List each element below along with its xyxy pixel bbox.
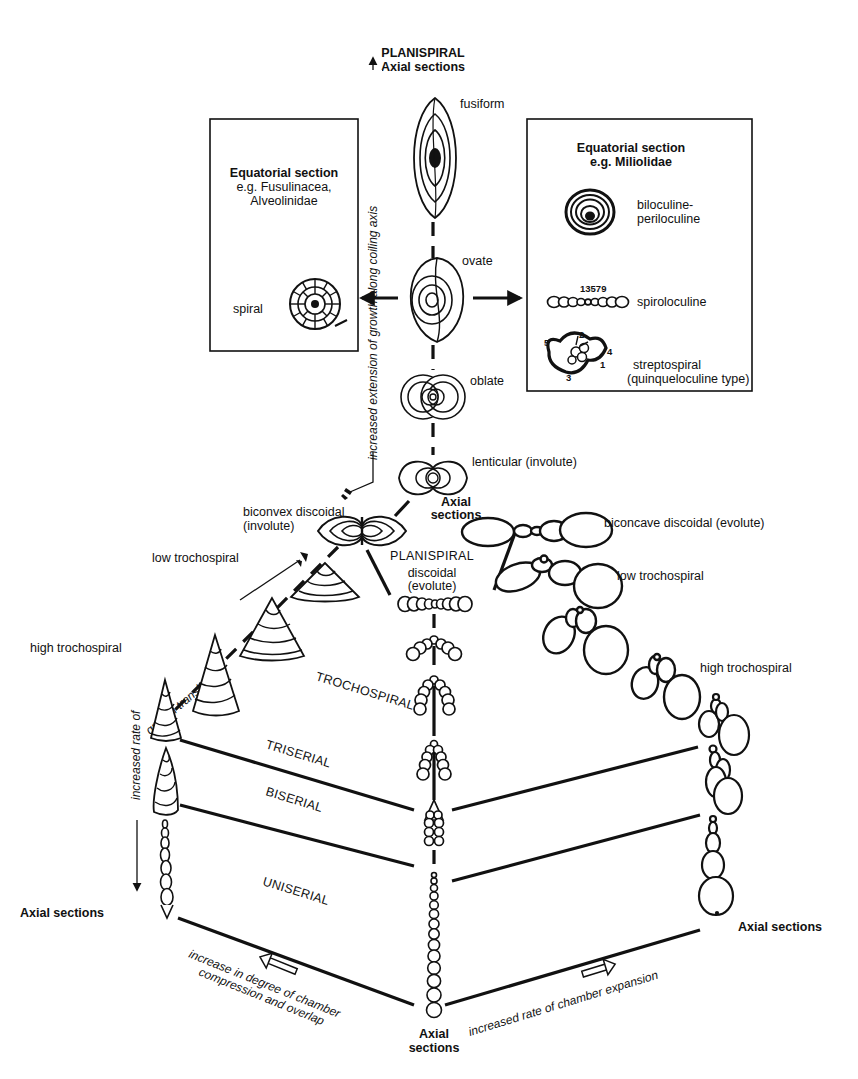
left-branch: growth translation increased rate of low… [20, 547, 359, 920]
spiral-label: spiral [233, 302, 263, 316]
expansion-label: increased rate of chamber expansion [467, 968, 660, 1039]
band-line-right-1 [452, 747, 698, 810]
spiral-shell-icon [290, 279, 347, 329]
uniserial-band-label: UNISERIAL [261, 874, 331, 907]
center-uniserial-shell-icon [427, 873, 442, 1018]
streptospiral-label-1: streptospiral [633, 358, 701, 372]
high-trochospiral-left-label: high trochospiral [30, 641, 122, 655]
strepto-number-4: 4 [607, 346, 613, 357]
biloculine-shell-icon [566, 190, 614, 234]
biloculine-label-1: biloculine- [637, 198, 693, 212]
discoidal-evolute-shell-icon [398, 597, 472, 612]
mid-trochospiral-right-shell-icon [537, 607, 628, 674]
fusiform-label: fusiform [460, 97, 504, 111]
biconcave-discoidal-shell-icon [462, 513, 612, 547]
feather-tail-icon [341, 488, 352, 500]
strepto-number-1: 1 [600, 359, 606, 370]
lenticular-shell-icon [399, 462, 467, 495]
left-box-subtitle-1: e.g. Fusulinacea, [236, 180, 331, 194]
strepto-number-5: 5 [544, 337, 550, 348]
biloculine-label-2: periloculine [637, 212, 700, 226]
spiroloculine-shell-icon [548, 297, 629, 308]
vertical-axis-label: increased extension of growth along coil… [366, 206, 380, 460]
oblate-shell-icon [401, 375, 465, 419]
left-box-subtitle-2: Alveolinidae [250, 194, 317, 208]
spiroloculine-label: spiroloculine [637, 295, 707, 309]
growth-translation-line [240, 560, 300, 600]
low-trochospiral-left-label: low trochospiral [152, 551, 239, 565]
band-line-right-2 [452, 815, 700, 881]
axis-connector [350, 470, 373, 492]
discoidal-label-1: discoidal [408, 566, 457, 580]
axial-sections-right-label: Axial sections [738, 920, 822, 934]
high-trochospiral-right-shell-icon [628, 654, 700, 719]
streptospiral-label-2: (quinqueloculine type) [627, 372, 749, 386]
planispiral-center-label: PLANISPIRAL [390, 549, 474, 563]
feather-tail-icon [296, 552, 308, 567]
axial-label-bottom-2: sections [409, 1041, 460, 1055]
strepto-number-3: 3 [566, 372, 571, 383]
biconcave-label: biconcave discoidal (evolute) [604, 516, 765, 530]
connector-biconvex-lenticular [395, 501, 409, 516]
uniserial-left-shell-icon [161, 820, 174, 918]
fusiform-shell-icon [414, 98, 456, 218]
band-line-biserial-top [180, 805, 414, 866]
axial-sections-left-label: Axial sections [20, 906, 104, 920]
lenticular-label: lenticular (involute) [472, 455, 577, 469]
high-trochospiral-mid-shell-icon [193, 635, 239, 716]
axial-label-bottom-1: Axial [419, 1027, 449, 1041]
planispiral-top-label: PLANISPIRAL [381, 46, 465, 60]
foraminifera-coiling-diagram: PLANISPIRAL Axial sections increased ext… [0, 0, 858, 1079]
right-box-title: Equatorial section [577, 141, 685, 155]
high-trochospiral-right-label: high trochospiral [700, 661, 792, 675]
high-trochospiral-right-2-shell-icon [699, 694, 749, 755]
right-box-subtitle: e.g. Miliolidae [590, 155, 672, 169]
streptospiral-shell-icon [548, 333, 606, 373]
biserial-band-label: BISERIAL [264, 784, 324, 815]
low-trochospiral-right-shell-icon [492, 556, 622, 609]
axial-sections-top-label: Axial sections [381, 60, 465, 74]
ovate-label: ovate [462, 254, 493, 268]
center-biserial-shell-icon [425, 800, 444, 846]
biconvex-label-2: (involute) [243, 519, 294, 533]
oblate-label: oblate [470, 374, 504, 388]
left-equatorial-box: Equatorial section e.g. Fusulinacea, Alv… [210, 119, 358, 351]
low-trochospiral-right-label: low trochospiral [617, 569, 704, 583]
increased-rate-label: increased rate of [129, 709, 143, 800]
bottom-annotations: increase in degree of chamber compressio… [187, 947, 660, 1039]
vertical-growth-axis: increased extension of growth along coil… [341, 58, 382, 500]
triserial-band-label: TRISERIAL [264, 737, 332, 770]
trochospiral-band-label: TROCHOSPIRAL [314, 669, 416, 712]
biconvex-discoidal-shell-icon [318, 517, 406, 546]
triserial-left-shell-icon [154, 748, 178, 815]
left-box-title: Equatorial section [230, 166, 338, 180]
uniserial-right-shell-icon [699, 816, 733, 915]
connector-biconvex-discoidal [367, 550, 390, 595]
mid-trochospiral-left-shell-icon [240, 598, 304, 661]
biconvex-label-1: biconvex discoidal [243, 505, 344, 519]
ovate-shell-icon [411, 258, 464, 342]
right-equatorial-box: Equatorial section e.g. Miliolidae biloc… [527, 119, 752, 391]
strepto-number-2: 2 [579, 329, 584, 340]
right-branch: biconcave discoidal (evolute) low trocho… [462, 513, 822, 934]
top-title: PLANISPIRAL Axial sections [381, 46, 465, 74]
axial-label-center-1: Axial [441, 495, 471, 509]
spiroloculine-numbers: 13579 [580, 283, 606, 294]
discoidal-label-2: (evolute) [408, 579, 457, 593]
